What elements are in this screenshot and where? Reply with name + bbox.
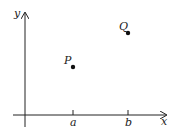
coordinate-diagram: y x a b P Q [0, 0, 178, 138]
tick-label-b: b [125, 116, 132, 129]
x-axis-label: x [161, 115, 168, 128]
point-label-q: Q [119, 20, 128, 33]
point-p [71, 65, 75, 69]
y-axis-label: y [13, 7, 21, 20]
tick-label-a: a [70, 116, 77, 129]
point-label-p: P [63, 54, 72, 67]
